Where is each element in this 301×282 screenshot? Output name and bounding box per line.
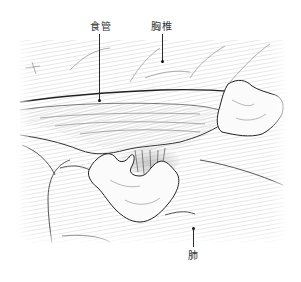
label-esophagus: 食管 — [90, 21, 112, 32]
pointer-dot-esophagus — [98, 99, 101, 102]
label-lung: 肺 — [188, 250, 199, 261]
label-thoracic-vertebra: 胸椎 — [151, 21, 173, 32]
esophagus-dissection-drawing — [0, 0, 301, 282]
anatomical-illustration: 食管 胸椎 肺 — [0, 0, 301, 282]
leader-lung — [193, 228, 194, 247]
leader-esophagus — [99, 34, 100, 100]
leader-thoracic-vertebra — [162, 34, 163, 61]
pointer-dot-thoracic-vertebra — [161, 60, 164, 63]
